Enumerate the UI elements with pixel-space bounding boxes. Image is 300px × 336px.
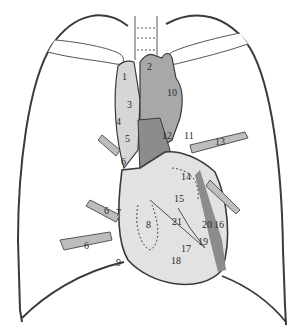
label-21: 21 bbox=[172, 217, 182, 227]
label-12: 12 bbox=[162, 131, 172, 141]
label-17: 17 bbox=[181, 244, 191, 254]
label-6c: 6 bbox=[84, 241, 89, 251]
right-clavicle bbox=[48, 40, 123, 64]
label-6a: 6 bbox=[121, 157, 126, 167]
label-20: 20 bbox=[202, 220, 212, 230]
left-diaphragm bbox=[222, 276, 286, 322]
label-4: 4 bbox=[116, 117, 121, 127]
heart-thorax-diagram bbox=[0, 0, 300, 336]
label-5: 5 bbox=[125, 134, 130, 144]
label-14: 14 bbox=[181, 172, 191, 182]
label-16: 16 bbox=[214, 220, 224, 230]
label-3: 3 bbox=[127, 100, 132, 110]
label-11: 11 bbox=[184, 131, 194, 141]
label-7: 7 bbox=[116, 208, 121, 218]
label-9: 9 bbox=[116, 258, 121, 268]
trachea bbox=[135, 16, 157, 60]
right-pulmonary-vessels bbox=[60, 135, 120, 250]
label-1: 1 bbox=[122, 72, 127, 82]
label-10: 10 bbox=[167, 88, 177, 98]
label-15: 15 bbox=[174, 194, 184, 204]
label-2: 2 bbox=[147, 62, 152, 72]
label-6b: 6 bbox=[104, 206, 109, 216]
label-8: 8 bbox=[146, 220, 151, 230]
left-clavicle bbox=[169, 33, 248, 64]
label-19: 19 bbox=[198, 237, 208, 247]
label-18: 18 bbox=[171, 256, 181, 266]
label-13: 13 bbox=[215, 137, 225, 147]
right-diaphragm bbox=[22, 262, 124, 318]
